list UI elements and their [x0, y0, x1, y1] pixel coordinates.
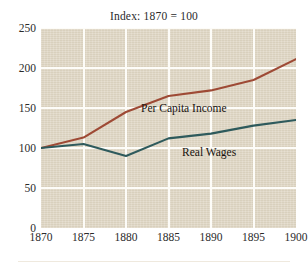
series-label-per-capita-income: Per Capita Income [141, 102, 227, 114]
x-axis: 1870187518801885189018951900 [41, 231, 296, 251]
plot-wrapper: Per Capita Income Real Wages [41, 28, 296, 228]
chart-title: Index: 1870 = 100 [0, 10, 308, 22]
x-axis-tick-label: 1880 [104, 231, 148, 243]
x-axis-tick-label: 1870 [19, 231, 63, 243]
y-axis-tick-label: 100 [2, 142, 36, 154]
y-axis-tick-label: 200 [2, 62, 36, 74]
footer-divider [18, 261, 290, 262]
y-axis: 050100150200250 [0, 28, 36, 228]
x-axis-tick-label: 1885 [147, 231, 191, 243]
x-axis-tick-label: 1900 [274, 231, 308, 243]
x-axis-tick-label: 1890 [189, 231, 233, 243]
x-axis-tick-label: 1875 [62, 231, 106, 243]
plot-area [41, 28, 296, 228]
series-label-real-wages: Real Wages [182, 146, 236, 158]
chart-figure: Index: 1870 = 100 050100150200250 Per Ca… [0, 0, 308, 267]
series-lines [41, 28, 296, 228]
x-axis-tick-label: 1895 [232, 231, 276, 243]
y-axis-tick-label: 250 [2, 22, 36, 34]
y-axis-tick-label: 50 [2, 182, 36, 194]
y-axis-tick-label: 150 [2, 102, 36, 114]
